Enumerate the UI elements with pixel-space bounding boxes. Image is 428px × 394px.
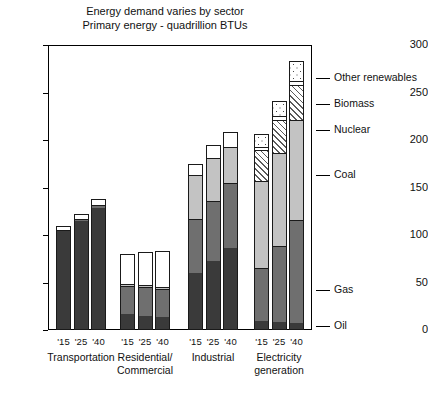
bar-segment-biomass bbox=[139, 252, 152, 285]
x-group-label-line2: Commercial bbox=[99, 364, 191, 377]
legend-leader-line-biomass bbox=[316, 104, 330, 105]
bar-segment-biomass bbox=[92, 199, 105, 205]
bar-segment-oil bbox=[273, 322, 286, 329]
bar-segment-coal bbox=[224, 147, 237, 183]
legend-label-biomass: Biomass bbox=[334, 97, 374, 109]
y-axis-tick-label: 100 bbox=[384, 228, 428, 240]
x-axis-year-label: '40 bbox=[220, 336, 242, 347]
bar-segment-biomass bbox=[207, 145, 220, 158]
bar-segment-gas bbox=[92, 205, 105, 209]
bar-segment-oil bbox=[139, 316, 152, 329]
bar-segment-coal bbox=[156, 287, 169, 289]
legend-label-coal: Coal bbox=[334, 168, 356, 180]
bar-segment-oil bbox=[75, 221, 88, 329]
bar-electricity-generation-15[interactable] bbox=[254, 134, 269, 330]
bar-segment-biomass bbox=[273, 116, 286, 120]
bar-segment-biomass bbox=[121, 254, 134, 284]
y-axis-tick-label: 300 bbox=[384, 38, 428, 50]
bar-transportation-15[interactable] bbox=[56, 226, 71, 330]
bar-industrial-25[interactable] bbox=[206, 145, 221, 330]
legend-leader-line-gas bbox=[316, 290, 330, 291]
bar-segment-oil bbox=[290, 323, 303, 329]
bar-segment-oil bbox=[189, 273, 202, 329]
legend-leader-line-oil bbox=[316, 326, 330, 327]
chart-title-block: Energy demand varies by sector Primary e… bbox=[0, 4, 330, 32]
legend-label-gas: Gas bbox=[334, 283, 353, 295]
bar-residential-40[interactable] bbox=[155, 251, 170, 330]
bar-segment-renew bbox=[273, 101, 286, 116]
bar-segment-gas bbox=[273, 246, 286, 322]
bar-segment-renew bbox=[290, 61, 303, 81]
bar-segment-gas bbox=[156, 289, 169, 317]
bar-segment-gas bbox=[255, 268, 268, 321]
bar-segment-gas bbox=[75, 219, 88, 221]
bar-segment-nuclear bbox=[273, 120, 286, 153]
legend-label-oil: Oil bbox=[334, 319, 347, 331]
y-axis-tick-label: 250 bbox=[384, 86, 428, 98]
bar-segment-oil bbox=[156, 317, 169, 329]
energy-demand-chart: Energy demand varies by sector Primary e… bbox=[0, 0, 428, 394]
x-axis-group-label: Electricitygeneration bbox=[233, 351, 325, 376]
bar-segment-biomass bbox=[57, 226, 70, 230]
bar-segment-renew bbox=[255, 134, 268, 146]
x-group-label-line2: generation bbox=[233, 364, 325, 377]
bar-residential-15[interactable] bbox=[120, 254, 135, 330]
bar-segment-gas bbox=[57, 230, 70, 231]
x-group-label-line1: Electricity bbox=[233, 351, 325, 364]
bar-segment-oil bbox=[92, 208, 105, 329]
legend-leader-line-nuclear bbox=[316, 130, 330, 131]
bar-electricity-generation-25[interactable] bbox=[272, 101, 287, 330]
legend-label-nuclear: Nuclear bbox=[334, 123, 370, 135]
bar-segment-gas bbox=[207, 201, 220, 261]
bar-segment-gas bbox=[290, 220, 303, 324]
bar-segment-nuclear bbox=[290, 85, 303, 120]
x-axis-year-label: '40 bbox=[286, 336, 308, 347]
bar-segment-biomass bbox=[290, 81, 303, 85]
legend-label-renew: Other renewables bbox=[334, 71, 417, 83]
bar-segment-gas bbox=[121, 286, 134, 314]
bar-industrial-40[interactable] bbox=[223, 132, 238, 330]
bar-segment-oil bbox=[207, 261, 220, 329]
bar-segment-biomass bbox=[224, 132, 237, 146]
bars-layer bbox=[48, 45, 312, 330]
bar-segment-biomass bbox=[255, 147, 268, 151]
bar-segment-biomass bbox=[189, 164, 202, 175]
bar-segment-coal bbox=[255, 181, 268, 268]
bar-segment-biomass bbox=[156, 251, 169, 287]
y-axis-tick-label: 150 bbox=[384, 181, 428, 193]
bar-segment-oil bbox=[121, 314, 134, 329]
bar-segment-gas bbox=[139, 287, 152, 316]
bar-industrial-15[interactable] bbox=[188, 164, 203, 330]
bar-segment-coal bbox=[290, 120, 303, 220]
bar-segment-coal bbox=[189, 175, 202, 219]
bar-segment-oil bbox=[224, 248, 237, 329]
bar-segment-coal bbox=[139, 285, 152, 287]
y-axis-tick-label: 50 bbox=[384, 276, 428, 288]
bar-electricity-generation-40[interactable] bbox=[289, 61, 304, 330]
bar-segment-oil bbox=[57, 231, 70, 329]
legend-leader-line-coal bbox=[316, 175, 330, 176]
legend-leader-line-renew bbox=[316, 78, 330, 79]
bar-segment-coal bbox=[121, 284, 134, 286]
bar-segment-gas bbox=[189, 219, 202, 273]
bar-segment-coal bbox=[207, 158, 220, 201]
bar-segment-biomass bbox=[75, 214, 88, 219]
y-axis-tick-label: 200 bbox=[384, 133, 428, 145]
x-axis-year-label: '40 bbox=[88, 336, 110, 347]
y-axis-tick-mark bbox=[43, 330, 48, 331]
bar-transportation-25[interactable] bbox=[74, 214, 89, 330]
chart-title: Energy demand varies by sector bbox=[0, 4, 330, 18]
bar-residential-25[interactable] bbox=[138, 252, 153, 330]
bar-transportation-40[interactable] bbox=[91, 199, 106, 330]
y-axis-tick-label: 0 bbox=[384, 323, 428, 335]
bar-segment-coal bbox=[273, 153, 286, 246]
x-axis-year-label: '40 bbox=[152, 336, 174, 347]
bar-segment-gas bbox=[224, 183, 237, 249]
bar-segment-oil bbox=[255, 321, 268, 329]
chart-subtitle: Primary energy - quadrillion BTUs bbox=[0, 18, 330, 32]
bar-segment-nuclear bbox=[255, 150, 268, 180]
